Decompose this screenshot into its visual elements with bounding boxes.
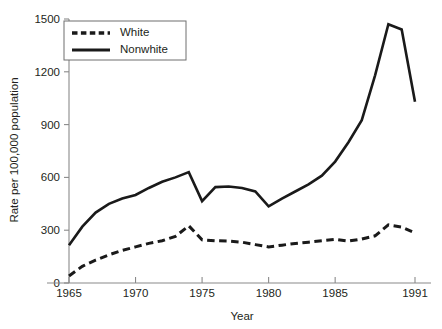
series-lines [69,24,415,276]
x-tick-label: 1970 [123,287,149,299]
y-tick-label: 1500 [34,13,60,25]
legend-label-nonwhite: Nonwhite [120,43,168,55]
x-tick-label: 1965 [56,287,82,299]
y-tick-label: 1200 [34,66,60,78]
x-axis-title: Year [230,310,253,322]
series-white [69,225,415,276]
x-tick-label: 1991 [402,287,428,299]
x-axis: 196519701975198019851991 [47,277,431,299]
line-chart: 030060090012001500 196519701975198019851… [0,0,442,329]
x-tick-label: 1980 [256,287,282,299]
y-tick-label: 600 [41,171,60,183]
chart-legend: WhiteNonwhite [64,21,186,60]
x-tick-label: 1985 [322,287,348,299]
chart-container: 030060090012001500 196519701975198019851… [0,0,442,329]
x-tick-label: 1975 [189,287,215,299]
y-axis-title: Rate per 100,000 population [8,77,20,222]
y-tick-label: 300 [41,224,60,236]
legend-label-white: White [120,26,149,38]
y-tick-label: 900 [41,119,60,131]
